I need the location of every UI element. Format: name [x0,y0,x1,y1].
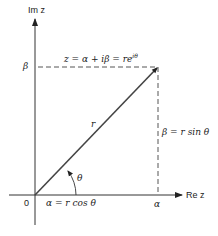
radius-vector [35,68,157,195]
imaginary-axis-label: Im z [28,6,45,15]
radius-label: r [91,120,95,129]
origin-label: 0 [24,199,29,208]
alpha-equation-label: α = r cos θ [46,199,96,208]
angle-label: θ [77,174,82,183]
equation-label: z = α + iβ = reiθ [64,53,138,64]
real-axis-label: Re z [186,191,205,200]
beta-axis-label: β [23,62,28,71]
complex-plane-diagram [0,0,218,236]
angle-arc [68,171,76,195]
alpha-axis-label: α [154,200,160,209]
beta-equation-label: β = r sin θ [162,128,209,137]
